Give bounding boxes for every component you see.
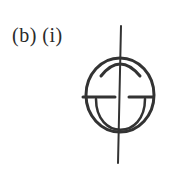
symbol-diagram	[0, 0, 178, 175]
vertical-axis-line	[118, 26, 121, 163]
